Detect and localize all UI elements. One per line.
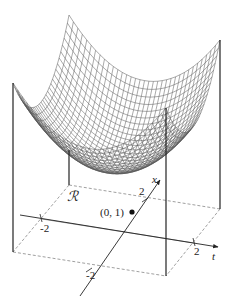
point-marker — [129, 209, 134, 214]
x-axis-label: x — [152, 174, 157, 185]
wireframe-surface — [13, 15, 220, 174]
x-tick-2: 2 — [139, 186, 145, 197]
point-label: (0, 1) — [100, 207, 124, 218]
t-tick-2: 2 — [194, 246, 200, 257]
region-label: ℛ — [67, 191, 78, 202]
x-tick-neg2: -2 — [86, 270, 95, 281]
t-axis-label: t — [212, 251, 215, 262]
t-axis — [20, 215, 218, 247]
t-tick-neg2: -2 — [40, 223, 49, 234]
